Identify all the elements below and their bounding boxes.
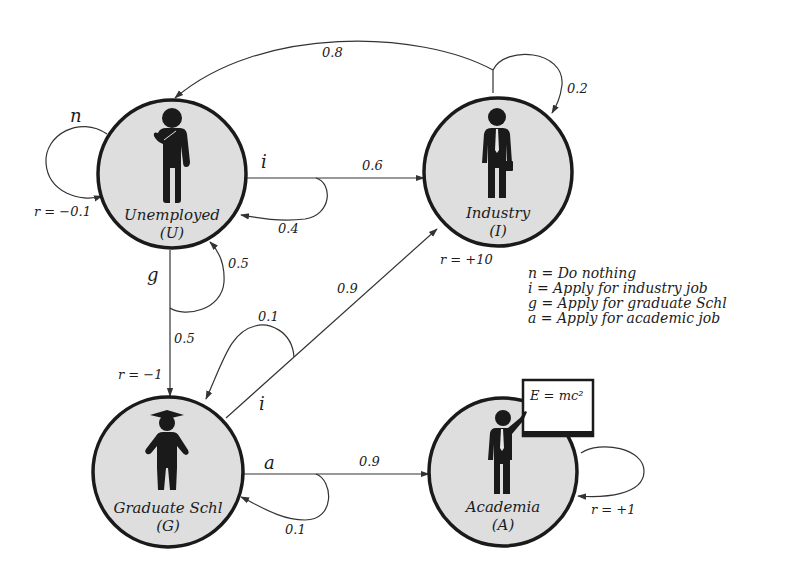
reward-academia: r = +1 — [591, 502, 636, 517]
edge-academia-self-loop — [578, 447, 644, 497]
prob-graduate-to-academia: 0.9 — [359, 454, 380, 469]
prob-graduate-self-i: 0.1 — [258, 309, 279, 324]
prob-unemployed-to-industry: 0.6 — [362, 158, 383, 173]
edge-unemployed-self-loop-i — [241, 178, 327, 220]
state-academia-symbol: (A) — [492, 516, 515, 534]
prob-graduate-self-a: 0.1 — [285, 522, 306, 537]
prob-unemployed-to-graduate: 0.5 — [174, 331, 195, 346]
board-text: E = mc² — [529, 388, 583, 403]
reward-industry: r = +10 — [440, 252, 493, 267]
action-label-a: a — [264, 452, 275, 473]
prob-industry-self: 0.2 — [567, 81, 588, 96]
legend-item-i: i = Apply for industry job — [528, 280, 708, 296]
state-unemployed: Unemployed (U) — [98, 100, 246, 248]
state-graduate-symbol: (G) — [156, 517, 180, 535]
state-graduate-name: Graduate Schl — [113, 499, 222, 517]
legend-item-a: a = Apply for academic job — [528, 310, 720, 326]
prob-unemployed-self-g: 0.5 — [228, 256, 249, 271]
state-graduate-school: Graduate Schl (G) — [93, 397, 243, 547]
action-legend: n = Do nothing i = Apply for industry jo… — [528, 265, 727, 326]
prob-graduate-to-industry: 0.9 — [337, 281, 358, 296]
state-industry-name: Industry — [465, 204, 531, 222]
state-academia: E = mc² Academia (A) — [429, 380, 593, 546]
legend-item-g: g = Apply for graduate Schl — [528, 295, 727, 311]
edge-unemployed-self-loop-g — [170, 242, 224, 312]
action-label-i-unemployed: i — [261, 151, 267, 172]
state-academia-name: Academia — [464, 498, 541, 516]
mdp-diagram: Unemployed (U) Industry (I) Graduate Sch… — [0, 0, 787, 579]
state-industry: Industry (I) — [424, 98, 572, 246]
prob-industry-to-unemployed: 0.8 — [322, 45, 343, 60]
state-unemployed-name: Unemployed — [124, 206, 220, 224]
action-label-i-graduate: i — [259, 393, 265, 414]
action-label-g: g — [147, 264, 159, 285]
edge-graduate-self-loop-i — [206, 325, 294, 399]
action-label-n: n — [70, 105, 82, 126]
state-industry-symbol: (I) — [489, 222, 507, 240]
edge-graduate-self-loop-a — [241, 474, 329, 520]
state-unemployed-symbol: (U) — [160, 224, 184, 242]
legend-item-n: n = Do nothing — [528, 265, 636, 281]
reward-unemployed: r = −0.1 — [34, 204, 91, 219]
prob-unemployed-self-i: 0.4 — [278, 221, 299, 236]
reward-graduate: r = −1 — [118, 367, 163, 382]
